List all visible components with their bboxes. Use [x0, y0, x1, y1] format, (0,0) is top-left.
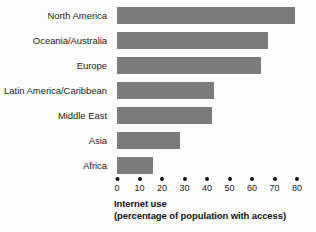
bar-middle-east — [117, 107, 212, 124]
bar-europe — [117, 57, 261, 74]
x-axis-title-line1: Internet use — [114, 198, 286, 210]
x-tick-label: 0 — [114, 183, 119, 193]
category-label: Africa — [0, 157, 112, 174]
category-label: Latin America/Caribbean — [0, 82, 112, 99]
x-tick-80: 80 — [292, 177, 302, 193]
x-tick-10: 10 — [134, 177, 144, 193]
bar-oceania-australia — [117, 32, 268, 49]
bar-chart: North America Oceania/Australia Europe L… — [0, 0, 316, 232]
bar-row — [117, 7, 297, 24]
x-tick-label: 30 — [179, 183, 189, 193]
x-axis: 01020304050607080 — [117, 177, 297, 197]
x-tick-label: 70 — [269, 183, 279, 193]
bar-latin-america-caribbean — [117, 82, 214, 99]
x-tick-60: 60 — [247, 177, 257, 193]
x-tick-label: 60 — [247, 183, 257, 193]
x-tick-40: 40 — [202, 177, 212, 193]
x-tick-label: 80 — [292, 183, 302, 193]
x-tick-0: 0 — [114, 177, 119, 193]
x-tick-70: 70 — [269, 177, 279, 193]
tick-dot-icon — [205, 177, 209, 181]
tick-dot-icon — [160, 177, 164, 181]
category-label: Europe — [0, 57, 112, 74]
tick-dot-icon — [295, 177, 299, 181]
x-tick-label: 20 — [157, 183, 167, 193]
x-tick-50: 50 — [224, 177, 234, 193]
bar-row — [117, 132, 297, 149]
bar-row — [117, 107, 297, 124]
bar-north-america — [117, 7, 295, 24]
bar-africa — [117, 157, 153, 174]
category-axis-labels: North America Oceania/Australia Europe L… — [0, 7, 112, 182]
plot-area — [117, 7, 297, 182]
x-tick-label: 40 — [202, 183, 212, 193]
bar-row — [117, 32, 297, 49]
x-tick-label: 50 — [224, 183, 234, 193]
tick-dot-icon — [250, 177, 254, 181]
x-axis-title: Internet use (percentage of population w… — [114, 198, 286, 222]
bar-row — [117, 57, 297, 74]
tick-dot-icon — [182, 177, 186, 181]
tick-dot-icon — [137, 177, 141, 181]
bar-row — [117, 82, 297, 99]
bar-row — [117, 157, 297, 174]
tick-dot-icon — [115, 177, 119, 181]
category-label: Middle East — [0, 107, 112, 124]
category-label: Oceania/Australia — [0, 32, 112, 49]
x-tick-label: 10 — [134, 183, 144, 193]
x-axis-title-line2: (percentage of population with access) — [114, 210, 286, 222]
x-tick-30: 30 — [179, 177, 189, 193]
category-label: North America — [0, 7, 112, 24]
tick-dot-icon — [272, 177, 276, 181]
x-tick-20: 20 — [157, 177, 167, 193]
bar-asia — [117, 132, 180, 149]
tick-dot-icon — [227, 177, 231, 181]
category-label: Asia — [0, 132, 112, 149]
